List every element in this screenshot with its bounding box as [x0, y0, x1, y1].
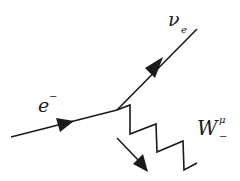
neutrino-label: ν e	[168, 10, 180, 29]
feynman-diagram	[0, 0, 240, 181]
w-boson-zigzag	[117, 105, 197, 170]
w-lorentz-index: μ	[219, 115, 226, 125]
momentum-arrow-line	[117, 138, 141, 163]
electron-label: e −	[38, 96, 49, 115]
neutrino-flavor: e	[181, 25, 187, 35]
w-symbol: W	[197, 116, 218, 140]
neutrino-symbol: ν	[168, 8, 180, 30]
electron-arrow-icon	[56, 118, 74, 132]
w-boson-label: W μ −	[197, 118, 218, 138]
w-charge: −	[219, 132, 227, 142]
neutrino-arrow-icon	[145, 57, 163, 78]
electron-symbol: e	[38, 94, 49, 116]
electron-charge: −	[49, 92, 57, 102]
